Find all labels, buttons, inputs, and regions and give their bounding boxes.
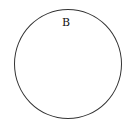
set-b-label: B [62, 17, 70, 28]
